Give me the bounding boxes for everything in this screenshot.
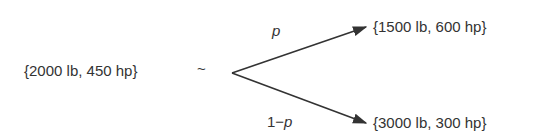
prob-var: p xyxy=(284,113,292,130)
branch-arrow-lower xyxy=(232,73,366,123)
prob-prefix: 1− xyxy=(267,113,284,130)
outcome-node-lower: {3000 lb, 300 hp} xyxy=(373,114,486,132)
branch-probability-upper: p xyxy=(272,22,280,40)
branch-arrow-upper xyxy=(232,27,366,73)
distributed-as-symbol: ~ xyxy=(197,60,206,78)
root-node-label: {2000 lb, 450 hp} xyxy=(24,62,137,80)
branch-probability-lower: 1−p xyxy=(267,113,292,131)
outcome-node-upper: {1500 lb, 600 hp} xyxy=(373,18,486,36)
